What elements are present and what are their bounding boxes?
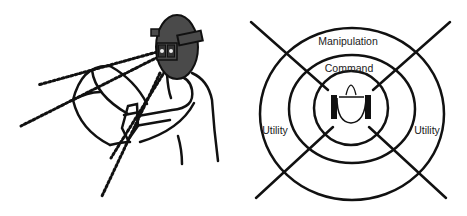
- utility-label-left: Utility: [262, 124, 288, 136]
- manipulation-label: Manipulation: [318, 35, 378, 47]
- virtual-panel: [73, 66, 147, 145]
- user-with-hmd-icon: [331, 85, 371, 123]
- interaction-zones-diagram: Manipulation Command Utility Utility: [233, 0, 467, 216]
- hmd-user-figure: [0, 0, 233, 216]
- hmd-icon: [151, 15, 203, 79]
- hmd-user-illustration: [0, 0, 233, 216]
- command-label: Command: [325, 62, 374, 74]
- utility-label-right: Utility: [414, 124, 440, 136]
- concentric-zones: Manipulation Command Utility Utility: [233, 0, 467, 216]
- person-body: [135, 73, 218, 164]
